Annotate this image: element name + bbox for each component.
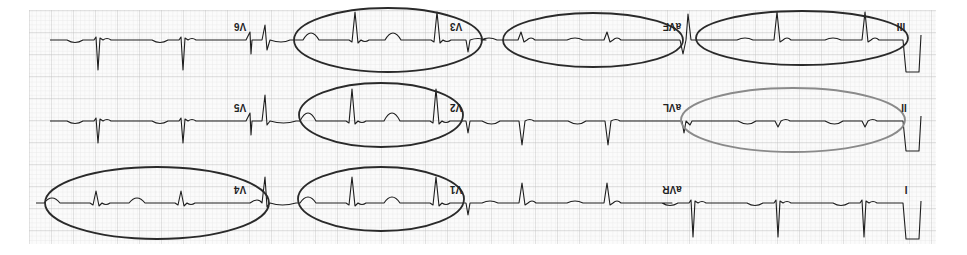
- svg-text:aVL: aVL: [663, 102, 681, 113]
- svg-text:V3: V3: [449, 21, 462, 32]
- svg-text:I: I: [904, 184, 907, 195]
- svg-text:aVR: aVR: [661, 184, 681, 195]
- lead-label-i: I: [904, 184, 907, 195]
- ecg-strip: V6V3aVFIIIV5V2aVLIIV4V1aVRI: [0, 0, 967, 255]
- lead-label-v2: V2: [449, 102, 462, 113]
- lead-label-v6: V6: [233, 21, 246, 32]
- lead-label-ii: II: [901, 102, 907, 113]
- svg-text:aVF: aVF: [663, 21, 681, 32]
- svg-text:V4: V4: [233, 184, 246, 195]
- lead-label-avl: aVL: [663, 102, 681, 113]
- lead-label-v5: V5: [233, 102, 246, 113]
- lead-label-v3: V3: [449, 21, 462, 32]
- svg-text:V5: V5: [233, 102, 246, 113]
- svg-text:V6: V6: [233, 21, 246, 32]
- lead-label-v1: V1: [449, 184, 462, 195]
- svg-text:V1: V1: [449, 184, 462, 195]
- ecg-grid-lines: [29, 10, 936, 244]
- svg-text:II: II: [901, 102, 907, 113]
- lead-label-avf: aVF: [663, 21, 681, 32]
- lead-label-avr: aVR: [661, 184, 681, 195]
- lead-label-v4: V4: [233, 184, 246, 195]
- svg-text:III: III: [897, 21, 906, 32]
- svg-text:V2: V2: [449, 102, 462, 113]
- lead-label-iii: III: [897, 21, 906, 32]
